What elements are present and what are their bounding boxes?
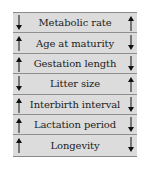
row-label: Interbirth interval <box>25 95 125 114</box>
arrow-up-icon <box>15 35 23 51</box>
arrow-up-icon <box>127 15 135 31</box>
table-row: Age at maturity <box>13 33 137 53</box>
arrow-up-icon <box>15 56 23 72</box>
row-label: Gestation length <box>25 54 125 73</box>
arrow-down-icon <box>15 15 23 31</box>
arrow-up-icon <box>15 97 23 113</box>
arrow-up-icon <box>15 117 23 133</box>
row-label: Age at maturity <box>25 33 125 52</box>
row-label: Litter size <box>25 74 125 93</box>
arrow-down-icon <box>127 137 135 153</box>
table-row: Longevity <box>13 135 137 155</box>
arrow-up-icon <box>127 76 135 92</box>
table-row: Gestation length <box>13 54 137 74</box>
arrow-down-icon <box>127 97 135 113</box>
table-row: Litter size <box>13 74 137 94</box>
life-history-table: Metabolic rate Age at maturity Gestation… <box>13 12 137 157</box>
row-label: Metabolic rate <box>25 13 125 32</box>
arrow-down-icon <box>127 56 135 72</box>
row-label: Lactation period <box>25 115 125 134</box>
arrow-down-icon <box>127 117 135 133</box>
table-row: Lactation period <box>13 115 137 135</box>
arrow-down-icon <box>127 35 135 51</box>
table-row: Interbirth interval <box>13 95 137 115</box>
arrow-down-icon <box>15 76 23 92</box>
arrow-up-icon <box>15 137 23 153</box>
table-row: Metabolic rate <box>13 13 137 33</box>
row-label: Longevity <box>25 135 125 155</box>
